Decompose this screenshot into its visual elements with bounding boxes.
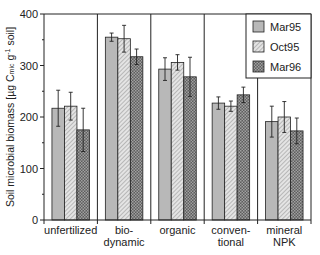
x-axis-labels: unfertilizedbio-dynamicorganicconven-tio…: [44, 224, 302, 248]
bar-group-unfertilized: [52, 90, 89, 220]
legend-label-mar95: Mar95: [270, 21, 301, 33]
bar-mar96: [291, 131, 304, 220]
bar-oct95: [225, 106, 238, 220]
bar-group-organic: [159, 55, 197, 220]
y-tick-label: 300: [20, 60, 38, 72]
bar-oct95: [64, 106, 77, 220]
bar-mar95: [212, 103, 225, 220]
x-tick-label: mineral: [266, 224, 302, 236]
bar-mar96: [130, 57, 143, 220]
bar-oct95: [118, 39, 131, 220]
legend-item-oct95: Oct95: [253, 41, 299, 53]
y-tick-label: 0: [32, 214, 38, 226]
x-tick-label: bio-: [115, 224, 134, 236]
legend-label-mar96: Mar96: [270, 61, 301, 73]
svg-text:Soil microbial biomass [µg Cmi: Soil microbial biomass [µg Cmic g-1 soil…: [4, 27, 16, 207]
bar-mar96: [237, 95, 250, 220]
y-tick-label: 200: [20, 111, 38, 123]
legend-swatch-oct95: [253, 41, 264, 52]
y-axis-ticks: 0100200300400: [20, 8, 44, 226]
legend-swatch-mar96: [253, 61, 264, 72]
bar-group-mineral-npk: [266, 102, 304, 220]
legend-item-mar95: Mar95: [253, 21, 301, 33]
x-tick-label: organic: [159, 224, 196, 236]
x-tick-label: NPK: [273, 236, 296, 248]
bar-group-conventional: [212, 87, 250, 220]
x-tick-label: dynamic: [104, 236, 145, 248]
y-axis-label: Soil microbial biomass [µg Cmic g-1 soil…: [4, 27, 16, 207]
legend-label-oct95: Oct95: [270, 41, 299, 53]
y-tick-label: 400: [20, 8, 38, 20]
bar-group-bio-dynamic: [105, 25, 143, 220]
bar-chart: Soil microbial biomass [µg Cmic g-1 soil…: [0, 0, 320, 255]
bar-mar96: [184, 77, 197, 220]
bar-mar95: [159, 69, 172, 220]
bar-mar95: [105, 37, 118, 220]
legend-swatch-mar95: [253, 21, 264, 32]
bar-oct95: [171, 62, 184, 220]
x-tick-label: tional: [218, 236, 244, 248]
legend-item-mar96: Mar96: [253, 61, 301, 73]
x-tick-label: conven-: [211, 224, 250, 236]
y-tick-label: 100: [20, 163, 38, 175]
x-tick-label: unfertilized: [44, 224, 97, 236]
legend: Mar95 Oct95 Mar96: [246, 14, 311, 78]
